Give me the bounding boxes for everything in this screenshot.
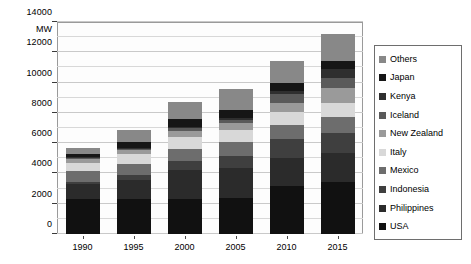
bar-segment-japan[interactable] xyxy=(168,119,202,127)
bar-segment-mexico[interactable] xyxy=(66,171,100,182)
bar-segment-new-zealand[interactable] xyxy=(270,103,304,113)
y-axis-tick-label: 10000 xyxy=(26,68,52,78)
bar-segment-usa[interactable] xyxy=(117,199,151,234)
bar-segment-iceland[interactable] xyxy=(117,149,151,150)
bar-segment-usa[interactable] xyxy=(66,199,100,234)
bar-segment-kenya[interactable] xyxy=(270,91,304,94)
bar-segment-indonesia[interactable] xyxy=(219,156,253,168)
bar-segment-iceland[interactable] xyxy=(66,158,100,159)
legend-item-japan[interactable]: Japan xyxy=(379,69,458,88)
bar-segment-others[interactable] xyxy=(117,130,151,142)
bar-2000[interactable] xyxy=(168,117,202,234)
bar-2005[interactable] xyxy=(219,96,253,234)
bar-segment-philippines[interactable] xyxy=(168,170,202,199)
bar-segment-japan[interactable] xyxy=(321,61,355,69)
bar-segment-italy[interactable] xyxy=(321,103,355,117)
x-axis-tick-label: 2010 xyxy=(276,242,296,252)
bar-segment-indonesia[interactable] xyxy=(270,139,304,157)
bar-segment-kenya[interactable] xyxy=(219,118,253,120)
x-axis-tick-mark xyxy=(83,236,84,239)
x-axis-tick-mark xyxy=(287,236,288,239)
bar-segment-mexico[interactable] xyxy=(270,125,304,140)
bar-segment-italy[interactable] xyxy=(219,130,253,142)
legend-swatch-icon xyxy=(379,74,386,81)
bar-segment-others[interactable] xyxy=(219,89,253,110)
bar-segment-italy[interactable] xyxy=(168,137,202,149)
bar-segment-iceland[interactable] xyxy=(219,120,253,123)
bar-segment-new-zealand[interactable] xyxy=(66,159,100,163)
legend-item-label: Iceland xyxy=(390,111,419,120)
bar-segment-indonesia[interactable] xyxy=(168,161,202,170)
bar-segment-usa[interactable] xyxy=(321,182,355,234)
legend-item-kenya[interactable]: Kenya xyxy=(379,87,458,106)
y-axis-tick-label: 14000 xyxy=(26,7,52,17)
bar-segment-indonesia[interactable] xyxy=(66,182,100,184)
x-axis-tick-label: 1990 xyxy=(72,242,92,252)
legend-item-label: Italy xyxy=(390,148,407,157)
bar-segment-japan[interactable] xyxy=(117,142,151,148)
legend-item-mexico[interactable]: Mexico xyxy=(379,162,458,181)
bar-2015[interactable] xyxy=(321,42,355,234)
bar-segment-usa[interactable] xyxy=(219,198,253,234)
y-axis-tick-label: 6000 xyxy=(32,128,52,138)
bar-segment-indonesia[interactable] xyxy=(117,175,151,180)
legend-item-indonesia[interactable]: Indonesia xyxy=(379,180,458,199)
y-axis-tick-label: 0 xyxy=(47,219,52,229)
bar-segment-italy[interactable] xyxy=(270,112,304,125)
bar-2010[interactable] xyxy=(270,72,304,234)
bar-segment-philippines[interactable] xyxy=(270,158,304,187)
bar-segment-usa[interactable] xyxy=(168,199,202,234)
bar-segment-new-zealand[interactable] xyxy=(219,123,253,130)
bar-segment-mexico[interactable] xyxy=(168,149,202,160)
bar-1995[interactable] xyxy=(117,130,151,234)
legend-item-label: Japan xyxy=(390,73,415,82)
legend-item-new-zealand[interactable]: New Zealand xyxy=(379,124,458,143)
bar-segment-iceland[interactable] xyxy=(270,94,304,103)
bar-segment-indonesia[interactable] xyxy=(321,133,355,153)
legend-item-others[interactable]: Others xyxy=(379,50,458,69)
y-axis-unit-label: MW xyxy=(36,24,52,34)
bar-segment-philippines[interactable] xyxy=(117,180,151,199)
x-axis-tick-mark xyxy=(185,236,186,239)
bar-segment-new-zealand[interactable] xyxy=(117,150,151,154)
bar-segment-philippines[interactable] xyxy=(321,153,355,182)
legend-item-label: Philippines xyxy=(390,204,434,213)
bar-segment-japan[interactable] xyxy=(66,154,100,157)
bar-segment-kenya[interactable] xyxy=(321,69,355,78)
bar-segment-others[interactable] xyxy=(270,61,304,83)
bar-segment-japan[interactable] xyxy=(270,83,304,91)
bar-1990[interactable] xyxy=(66,148,100,234)
legend-item-iceland[interactable]: Iceland xyxy=(379,106,458,125)
legend-item-label: Mexico xyxy=(390,166,419,175)
bar-series-group xyxy=(57,22,363,234)
legend-item-label: Indonesia xyxy=(390,185,429,194)
bar-segment-italy[interactable] xyxy=(66,163,100,171)
chart-legend: OthersJapanKenyaIcelandNew ZealandItalyM… xyxy=(374,45,462,240)
legend-item-philippines[interactable]: Philippines xyxy=(379,199,458,218)
bar-segment-mexico[interactable] xyxy=(219,142,253,156)
legend-item-italy[interactable]: Italy xyxy=(379,143,458,162)
legend-item-label: New Zealand xyxy=(390,129,443,138)
y-axis-tick-label: 4000 xyxy=(32,158,52,168)
bar-segment-others[interactable] xyxy=(66,148,100,154)
legend-item-usa[interactable]: USA xyxy=(379,217,458,236)
bar-segment-mexico[interactable] xyxy=(321,117,355,132)
bar-segment-kenya[interactable] xyxy=(66,157,100,158)
x-axis-tick-label: 2000 xyxy=(174,242,194,252)
bar-segment-others[interactable] xyxy=(168,102,202,119)
bar-segment-kenya[interactable] xyxy=(168,127,202,128)
y-axis-tick-label: 2000 xyxy=(32,189,52,199)
bar-segment-iceland[interactable] xyxy=(168,128,202,131)
bar-segment-usa[interactable] xyxy=(270,186,304,234)
legend-item-label: Others xyxy=(390,55,417,64)
bar-segment-philippines[interactable] xyxy=(219,168,253,198)
bar-segment-new-zealand[interactable] xyxy=(321,88,355,103)
bar-segment-others[interactable] xyxy=(321,34,355,61)
bar-segment-new-zealand[interactable] xyxy=(168,131,202,138)
bar-segment-japan[interactable] xyxy=(219,110,253,118)
bar-segment-mexico[interactable] xyxy=(117,164,151,175)
bar-segment-iceland[interactable] xyxy=(321,78,355,88)
bar-segment-italy[interactable] xyxy=(117,154,151,164)
bar-segment-philippines[interactable] xyxy=(66,184,100,198)
bar-segment-kenya[interactable] xyxy=(117,148,151,149)
